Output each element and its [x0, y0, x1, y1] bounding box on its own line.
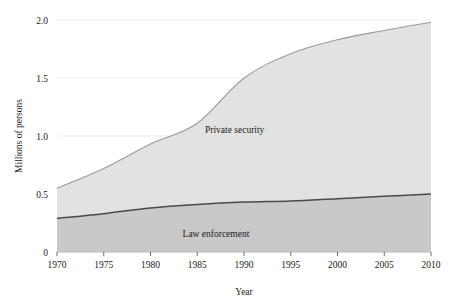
- x-tick-label-1970: 1970: [48, 260, 67, 270]
- x-tick-label-1975: 1975: [94, 260, 113, 270]
- series-label-private-security: Private security: [205, 125, 265, 135]
- y-tick-label-1-5: 1.5: [36, 74, 48, 84]
- x-axis-title: Year: [235, 287, 253, 297]
- chart-container: 197019751980198519901995200020052010 00.…: [0, 0, 459, 302]
- stacked-area-chart: 197019751980198519901995200020052010 00.…: [0, 0, 459, 302]
- x-tick-label-1990: 1990: [235, 260, 254, 270]
- y-tick-label-2-0: 2.0: [36, 16, 48, 26]
- y-tick-label-1-0: 1.0: [36, 132, 48, 142]
- y-tick-label-0: 0: [43, 248, 48, 258]
- series-label-law-enforcement: Law enforcement: [183, 229, 250, 239]
- x-tick-label-1985: 1985: [188, 260, 207, 270]
- x-axis-tick-labels-group: 197019751980198519901995200020052010: [48, 260, 441, 270]
- x-tick-label-1995: 1995: [281, 260, 300, 270]
- x-tick-label-1980: 1980: [141, 260, 160, 270]
- x-tick-label-2000: 2000: [328, 260, 347, 270]
- y-tick-label-0-5: 0.5: [36, 190, 48, 200]
- x-tick-label-2005: 2005: [375, 260, 394, 270]
- y-axis-title: Millions of persons: [14, 99, 24, 173]
- x-tick-label-2010: 2010: [422, 260, 441, 270]
